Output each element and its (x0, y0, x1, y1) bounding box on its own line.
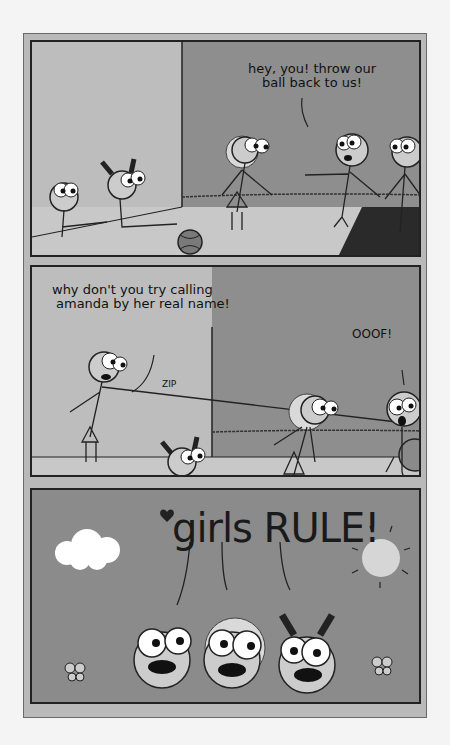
butterfly-icon (372, 657, 392, 675)
panel-2: why don't you try calling amanda by her … (30, 265, 421, 477)
sfx-ooof: OOOF! (352, 327, 392, 341)
butterfly-icon (65, 663, 85, 681)
cloud-icon (55, 529, 120, 570)
speech-line: ball back to us! (227, 76, 397, 90)
speech-line: hey, you! throw our (227, 62, 397, 76)
speech-line: amanda by her real name! (52, 297, 272, 311)
title-girls-rule: girls RULE! (172, 505, 379, 551)
speech-line: why don't you try calling (52, 283, 272, 297)
sfx-zip: ZIP (162, 377, 176, 391)
panel-1: hey, you! throw our ball back to us! (30, 40, 421, 257)
speech-bubble-2: why don't you try calling amanda by her … (52, 283, 272, 311)
panel-3: girls RULE! (30, 488, 421, 704)
speech-bubble-1: hey, you! throw our ball back to us! (227, 62, 397, 90)
